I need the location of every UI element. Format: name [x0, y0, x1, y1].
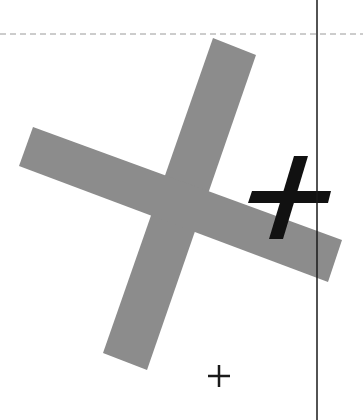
drawing-canvas [0, 0, 363, 420]
small-plus-marker [208, 365, 230, 387]
black-cross-bar [248, 191, 331, 203]
